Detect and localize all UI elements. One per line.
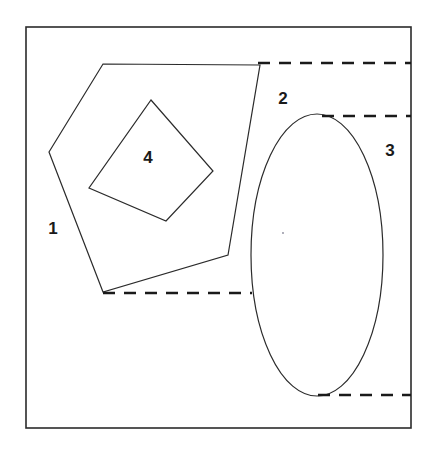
region-label-4: 4 [143,149,152,166]
figure-background [0,0,439,454]
region-label-2: 2 [278,90,287,107]
region-label-1: 1 [48,220,57,237]
interior-dot [282,232,284,234]
region-label-3: 3 [385,142,394,159]
diagram-canvas: 1 2 3 4 [0,0,439,454]
diagram-svg [0,0,439,454]
